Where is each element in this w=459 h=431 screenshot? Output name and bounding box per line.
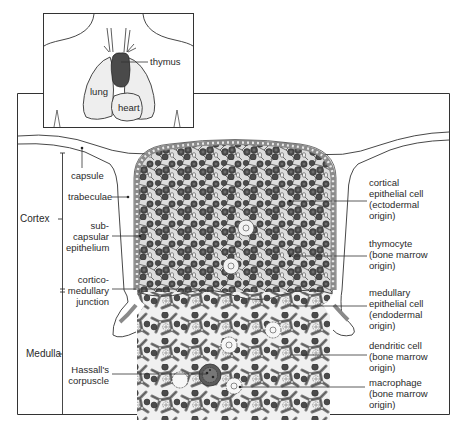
label-lung: lung — [90, 86, 108, 97]
label-dendritic-cell: dendritic cell (bone marrow origin) — [369, 340, 428, 373]
label-heart: heart — [118, 102, 140, 113]
thymus-diagram: thymus lung heart Cortex Medulla capsule… — [0, 0, 459, 431]
label-thymocyte: thymocyte (bone marrow origin) — [369, 238, 428, 271]
label-macrophage: macrophage (bone marrow origin) — [369, 377, 428, 410]
label-thymus: thymus — [150, 56, 181, 67]
label-medulla: Medulla — [26, 348, 61, 359]
label-corticomedullary-junction: cortico- medullary junction — [66, 274, 109, 307]
label-cortical-epithelial-cell: cortical epithelial cell (ectodermal ori… — [369, 177, 423, 221]
hassalls-corpuscle — [199, 364, 221, 386]
label-capsule: capsule — [71, 170, 104, 181]
thymus-organ — [111, 53, 130, 87]
label-medullary-epithelial-cell: medullary epithelial cell (endodermal or… — [369, 287, 423, 331]
label-hassalls-corpuscle: Hassall's corpuscle — [66, 364, 109, 386]
region-brackets — [58, 153, 65, 414]
label-subcapsular-epithelium: sub- capsular epithelium — [66, 220, 109, 253]
label-cortex: Cortex — [20, 213, 49, 224]
label-trabeculae: trabeculae — [68, 191, 112, 202]
